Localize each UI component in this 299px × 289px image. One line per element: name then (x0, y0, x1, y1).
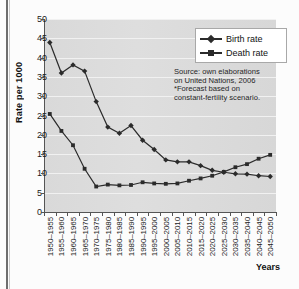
chart-legend: Birth rate Death rate (195, 28, 287, 63)
y-tick-mark (41, 135, 44, 136)
x-tick-label: 1970–1975 (92, 217, 101, 256)
data-point-death-rate[interactable] (106, 183, 110, 187)
data-point-death-rate[interactable] (164, 182, 168, 186)
x-tick-label: 2010–2015 (185, 217, 194, 256)
x-tick-mark (148, 212, 149, 216)
x-tick-mark (90, 212, 91, 216)
x-tick-labels: 1950–19551955–19601960–19651965–19701970… (44, 217, 276, 283)
x-tick-mark (172, 212, 173, 216)
data-point-death-rate[interactable] (152, 182, 156, 186)
source-note: Source: own elaborations on United Natio… (174, 68, 290, 102)
y-tick-mark (41, 193, 44, 194)
x-tick-label: 2005–2010 (173, 217, 182, 256)
x-tick-mark (56, 212, 57, 216)
y-tick-mark (41, 58, 44, 59)
data-point-death-rate[interactable] (118, 183, 122, 187)
data-point-birth-rate[interactable] (268, 174, 273, 179)
data-point-death-rate[interactable] (210, 174, 214, 178)
x-tick-mark (67, 212, 68, 216)
data-point-birth-rate[interactable] (198, 163, 203, 168)
x-tick-mark (137, 212, 138, 216)
x-tick-mark (230, 212, 231, 216)
data-point-birth-rate[interactable] (244, 171, 249, 176)
data-point-death-rate[interactable] (222, 170, 226, 174)
y-tick-mark (41, 173, 44, 174)
x-tick-label: 2045–2050 (266, 217, 275, 256)
data-point-death-rate[interactable] (245, 162, 249, 166)
data-point-birth-rate[interactable] (94, 99, 99, 104)
x-tick-label: 1960–1965 (69, 217, 78, 256)
legend-label-birth-rate: Birth rate (226, 34, 263, 44)
x-tick-label: 2020–2025 (208, 217, 217, 256)
data-point-death-rate[interactable] (234, 165, 238, 169)
y-tick-mark (41, 154, 44, 155)
data-point-birth-rate[interactable] (186, 159, 191, 164)
x-tick-mark (160, 212, 161, 216)
data-point-death-rate[interactable] (141, 180, 145, 184)
y-tick-mark (41, 116, 44, 117)
y-axis-title: Rate per 1000 (12, 32, 26, 152)
x-tick-label: 2025–2030 (220, 217, 229, 256)
x-tick-mark (44, 212, 45, 216)
y-tick-mark (41, 96, 44, 97)
x-tick-label: 1995–2000 (150, 217, 159, 256)
data-point-birth-rate[interactable] (105, 124, 110, 129)
legend-label-death-rate: Death rate (226, 48, 268, 58)
data-point-death-rate[interactable] (199, 177, 203, 181)
data-point-death-rate[interactable] (83, 167, 87, 171)
x-tick-label: 2040–2045 (255, 217, 264, 256)
x-tick-mark (79, 212, 80, 216)
series-line-death-rate (50, 114, 270, 187)
data-point-death-rate[interactable] (48, 112, 52, 116)
x-tick-mark (218, 212, 219, 216)
x-tick-mark (241, 212, 242, 216)
diamond-marker-icon (200, 34, 222, 44)
data-point-birth-rate[interactable] (233, 171, 238, 176)
x-tick-label: 2015–2020 (197, 217, 206, 256)
x-tick-label: 2035–2040 (243, 217, 252, 256)
x-tick-mark (102, 212, 103, 216)
data-point-death-rate[interactable] (268, 153, 272, 157)
legend-item-death-rate[interactable]: Death rate (200, 46, 282, 60)
figure-root: Rate per 1000 05101520253035404550 1950–… (0, 0, 299, 289)
square-marker-icon (200, 48, 222, 58)
x-tick-mark (183, 212, 184, 216)
cut-off-caption (40, 0, 240, 9)
x-tick-label: 2030–2035 (231, 217, 240, 256)
data-point-birth-rate[interactable] (210, 168, 215, 173)
source-note-line-4: constant-fertility scenario. (174, 94, 290, 103)
page-gutter-line-secondary (9, 0, 10, 289)
y-tick-mark (41, 77, 44, 78)
x-tick-label: 1975–1980 (104, 217, 113, 256)
x-tick-mark (114, 212, 115, 216)
x-tick-mark (206, 212, 207, 216)
data-point-birth-rate[interactable] (82, 68, 87, 73)
legend-item-birth-rate[interactable]: Birth rate (200, 32, 282, 46)
data-point-birth-rate[interactable] (175, 159, 180, 164)
x-tick-label: 1955–1960 (57, 217, 66, 256)
data-point-death-rate[interactable] (60, 129, 64, 133)
x-tick-mark (253, 212, 254, 216)
x-axis-title: Years (256, 262, 280, 272)
data-point-death-rate[interactable] (129, 183, 133, 187)
data-point-death-rate[interactable] (176, 182, 180, 186)
x-tick-label: 1980–1985 (115, 217, 124, 256)
line-chart: Rate per 1000 05101520253035404550 1950–… (14, 14, 292, 276)
x-tick-mark (195, 212, 196, 216)
data-point-birth-rate[interactable] (256, 173, 261, 178)
data-point-death-rate[interactable] (187, 179, 191, 183)
x-tick-label: 1990–1995 (139, 217, 148, 256)
x-tick-label: 2000–2005 (162, 217, 171, 256)
y-tick-mark (41, 38, 44, 39)
x-tick-mark (125, 212, 126, 216)
x-tick-label: 1965–1970 (81, 217, 90, 256)
x-tick-mark (264, 212, 265, 216)
x-tick-label: 1950–1955 (46, 217, 55, 256)
data-point-birth-rate[interactable] (47, 40, 52, 45)
x-tick-label: 1985–1990 (127, 217, 136, 256)
data-point-death-rate[interactable] (257, 157, 261, 161)
data-point-death-rate[interactable] (94, 185, 98, 189)
data-point-death-rate[interactable] (71, 143, 75, 147)
x-tick-mark (276, 212, 277, 216)
page-gutter-line (6, 0, 8, 289)
